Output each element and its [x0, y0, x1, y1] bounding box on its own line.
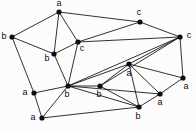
- label-layer: abbcccababaaab: [1, 0, 191, 122]
- graph-edge: [59, 12, 140, 22]
- graph-figure: abbcccababaaab: [0, 0, 196, 130]
- vertex-label: a: [157, 97, 162, 107]
- graph-edge: [100, 37, 180, 86]
- vertex-label: a: [183, 81, 188, 91]
- graph-vertex: [39, 115, 44, 120]
- vertex-label: b: [64, 89, 69, 99]
- graph-edge: [68, 42, 78, 86]
- graph-vertex: [31, 90, 36, 95]
- graph-edge: [100, 64, 129, 86]
- graph-vertex: [137, 19, 142, 24]
- graph-vertex: [126, 61, 131, 66]
- graph-vertex: [97, 83, 102, 88]
- graph-vertex: [177, 34, 182, 39]
- graph-vertex: [51, 51, 56, 56]
- graph-vertex: [136, 104, 141, 109]
- graph-edge: [129, 37, 180, 64]
- graph-edge: [12, 37, 34, 93]
- vertex-label: a: [30, 112, 35, 122]
- graph-canvas: abbcccababaaab: [0, 0, 196, 130]
- graph-vertex: [9, 34, 14, 39]
- graph-edge: [54, 12, 59, 54]
- graph-edge: [12, 37, 54, 54]
- vertex-label: b: [135, 111, 140, 121]
- graph-vertex: [56, 9, 61, 14]
- graph-edge: [78, 37, 180, 42]
- graph-edge: [129, 64, 183, 78]
- vertex-label: c: [187, 30, 192, 40]
- graph-edge: [59, 12, 78, 42]
- graph-edge: [54, 54, 68, 86]
- vertex-label: b: [44, 53, 49, 63]
- vertex-label: a: [56, 0, 61, 8]
- graph-edge: [68, 64, 129, 86]
- graph-edge: [54, 42, 78, 54]
- graph-edge: [129, 64, 160, 94]
- graph-edge: [100, 86, 139, 107]
- graph-vertex: [180, 75, 185, 80]
- graph-edge: [140, 22, 180, 37]
- graph-edge: [12, 12, 59, 37]
- vertex-label: c: [80, 43, 85, 53]
- graph-vertex: [65, 83, 70, 88]
- vertex-label: a: [126, 68, 131, 78]
- graph-edge: [160, 78, 183, 94]
- vertex-label: b: [1, 31, 6, 41]
- vertex-label: a: [22, 87, 27, 97]
- graph-edge: [68, 37, 180, 86]
- vertex-label: b: [96, 89, 101, 99]
- graph-edge: [42, 107, 139, 118]
- graph-vertex: [157, 91, 162, 96]
- graph-edge: [180, 37, 183, 78]
- vertex-label: c: [137, 7, 142, 17]
